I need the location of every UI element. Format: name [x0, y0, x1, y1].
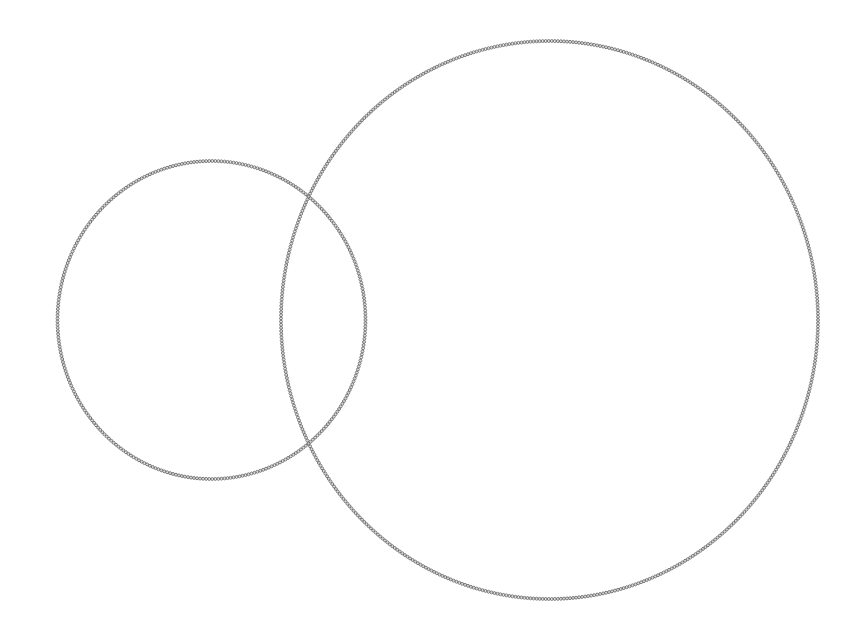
large-circle — [280, 40, 820, 601]
small-circle — [56, 160, 367, 481]
shape-large-outline — [281, 41, 818, 599]
diagram-canvas — [0, 0, 859, 643]
